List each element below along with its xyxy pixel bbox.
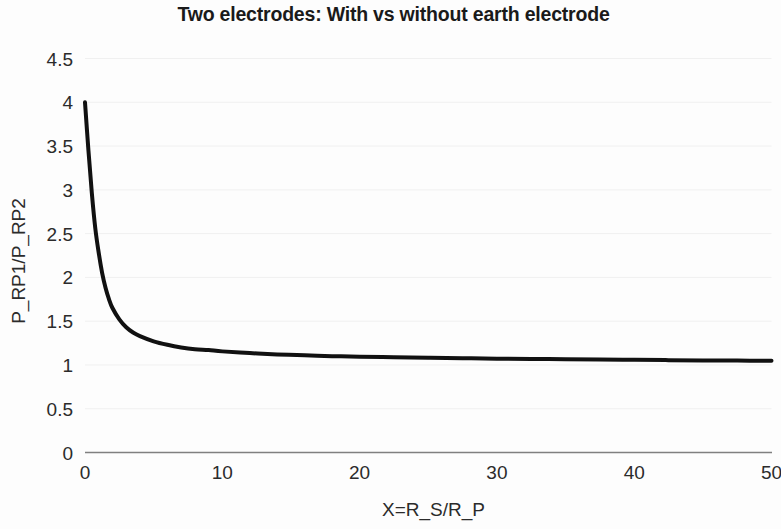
x-tick-label: 30 <box>486 462 507 483</box>
y-tick-label: 2.5 <box>47 224 73 245</box>
x-tick-labels-group: 01020304050 <box>80 462 781 483</box>
y-tick-label: 1.5 <box>47 311 73 332</box>
x-tick-label: 20 <box>349 462 370 483</box>
x-tick-label: 50 <box>761 462 781 483</box>
x-tick-label: 10 <box>212 462 233 483</box>
y-tick-label: 4 <box>62 92 73 113</box>
y-tick-label: 4.5 <box>47 49 73 70</box>
data-series-line <box>85 102 772 361</box>
x-axis-title: X=R_S/R_P <box>0 499 781 521</box>
x-tick-label: 40 <box>624 462 645 483</box>
y-tick-label: 3 <box>62 180 73 201</box>
y-tick-label: 1 <box>62 355 73 376</box>
plot-area: 00.511.522.533.544.5 01020304050 <box>0 0 781 529</box>
y-tick-label: 2 <box>62 267 73 288</box>
y-tick-label: 0 <box>62 443 73 464</box>
x-tick-label: 0 <box>80 462 91 483</box>
y-axis-title: P_RP1/P_RP2 <box>8 151 30 371</box>
chart-figure: Two electrodes: With vs without earth el… <box>0 0 781 529</box>
y-tick-labels-group: 00.511.522.533.544.5 <box>47 49 74 464</box>
y-tick-label: 3.5 <box>47 136 73 157</box>
y-tick-label: 0.5 <box>47 399 73 420</box>
